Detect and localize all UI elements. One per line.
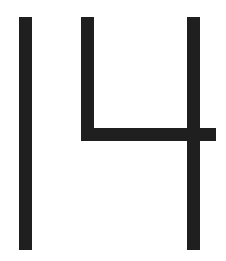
digit-one-stroke [19,17,32,250]
digit-four-right-stem [187,17,200,250]
glyph-text: 14 [0,0,1,1]
digit-four-left-stem [81,17,94,141]
